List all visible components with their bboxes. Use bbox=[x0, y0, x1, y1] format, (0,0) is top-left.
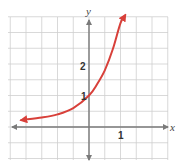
y-tick-label-1: 1 bbox=[81, 91, 87, 102]
x-tick-label-1: 1 bbox=[118, 130, 124, 141]
grid-lines bbox=[8, 17, 168, 160]
y-axis-label: y bbox=[85, 5, 91, 17]
x-axis-label: x bbox=[169, 121, 175, 133]
exponential-graph: y x 2 1 1 bbox=[0, 0, 177, 167]
y-tick-label-2: 2 bbox=[80, 61, 86, 72]
